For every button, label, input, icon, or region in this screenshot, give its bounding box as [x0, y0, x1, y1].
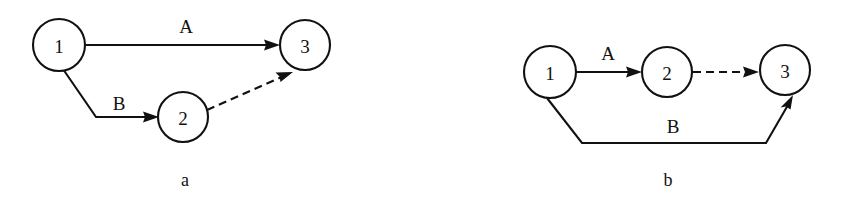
edge-b-B: B: [547, 95, 793, 143]
edge-a-dashed: [207, 72, 293, 110]
b-node-1-label: 1: [545, 63, 555, 84]
arrowhead-icon: [143, 112, 159, 123]
diagram-canvas: A B 1 2: [0, 0, 842, 200]
edge-a-B: B: [64, 71, 159, 123]
panel-b: A B 1 2: [524, 43, 810, 190]
arrowhead-icon: [264, 40, 280, 51]
b-node-2-label: 2: [662, 63, 672, 84]
a-node-1[interactable]: 1: [33, 19, 85, 71]
a-node-3-label: 3: [300, 36, 310, 57]
b-node-3[interactable]: 3: [760, 45, 810, 95]
panel-a-caption: a: [181, 170, 189, 190]
edge-a-A-label: A: [179, 16, 193, 37]
a-node-2-label: 2: [178, 108, 188, 129]
edge-b-dashed: [693, 67, 759, 78]
b-node-1[interactable]: 1: [524, 46, 576, 98]
panel-a: A B 1 2: [33, 16, 330, 190]
edge-a-A: A: [86, 16, 281, 51]
arrowhead-icon: [743, 67, 759, 78]
edge-b-A: A: [577, 43, 643, 78]
arrowhead-icon: [276, 72, 294, 82]
edge-a-B-line: [64, 71, 151, 118]
arrowhead-icon: [626, 67, 642, 78]
edge-a-dashed-line: [207, 76, 285, 111]
panel-b-caption: b: [664, 170, 673, 190]
a-node-2[interactable]: 2: [158, 92, 208, 142]
b-node-2[interactable]: 2: [642, 47, 692, 97]
edge-b-B-label: B: [667, 116, 680, 137]
edge-b-A-label: A: [601, 43, 615, 64]
figure-root: A B 1 2: [0, 0, 842, 200]
a-node-3[interactable]: 3: [280, 20, 330, 70]
a-node-1-label: 1: [54, 36, 64, 57]
edge-a-B-label: B: [113, 93, 126, 114]
b-node-3-label: 3: [780, 61, 790, 82]
